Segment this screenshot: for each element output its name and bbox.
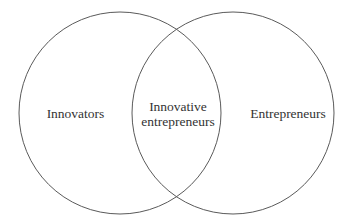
venn-diagram: Innovators Innovative entrepreneurs Entr… bbox=[0, 0, 351, 221]
entrepreneurs-label: Entrepreneurs bbox=[250, 106, 326, 121]
intersection-label-line1: Innovative bbox=[149, 99, 207, 114]
intersection-label-line2: entrepreneurs bbox=[141, 114, 214, 129]
innovators-label: Innovators bbox=[47, 106, 105, 121]
